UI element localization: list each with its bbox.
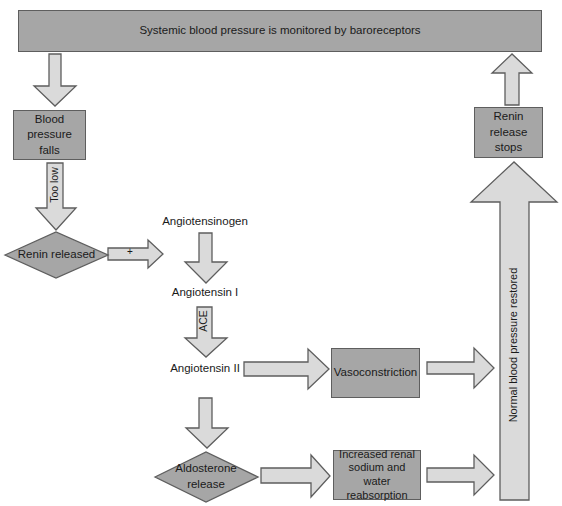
angiotensin-2-label: Angiotensin II — [150, 362, 260, 374]
angiotensinogen-label: Angiotensinogen — [150, 215, 260, 227]
ace-label: ACE — [197, 301, 211, 341]
arrow-to-renal — [261, 455, 330, 497]
baroreceptors-bar: Systemic blood pressure is monitored by … — [18, 10, 542, 52]
arrow-angiotensinogen-to-1 — [185, 233, 227, 283]
arrow-to-aldosterone — [186, 398, 228, 448]
too-low-label: Too low — [48, 155, 62, 215]
arrow-up-to-baroreceptors — [492, 54, 532, 105]
renal-reabsorption-box: Increased renal sodium and water reabsor… — [333, 450, 421, 500]
plus-label: + — [122, 246, 138, 257]
renin-stops-box: Renin release stops — [474, 107, 543, 158]
arrow-renal-to-normal — [427, 455, 494, 495]
normal-restored-label: Normal blood pressure restored — [507, 265, 521, 425]
vasoconstriction-box: Vasoconstriction — [331, 348, 420, 398]
renin-released-label: Renin released — [5, 245, 108, 265]
angiotensin-1-label: Angiotensin I — [150, 286, 260, 298]
arrow-down-to-bp-falls — [34, 54, 76, 106]
arrow-vaso-to-normal — [427, 348, 494, 388]
aldosterone-label: Aldosterone release — [175, 462, 237, 492]
bp-falls-box: Blood pressure falls — [13, 110, 86, 160]
